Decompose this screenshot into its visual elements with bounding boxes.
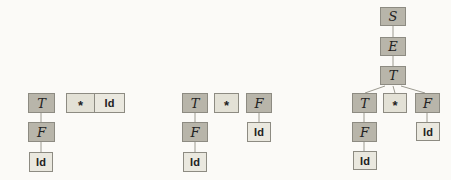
g2-node-star: *	[214, 93, 239, 113]
edge	[401, 86, 425, 93]
edge	[365, 86, 385, 93]
g1-node-F: F	[28, 122, 55, 142]
g2-node-F-label: F	[190, 125, 199, 140]
g2-node-star-label: *	[224, 98, 229, 113]
g3-node-F-label: F	[360, 125, 369, 140]
g1-star-cell: *	[67, 94, 95, 112]
g3-node-Id: Id	[353, 151, 377, 170]
g1-node-T: T	[28, 93, 55, 113]
g2-node-Id-label: Id	[190, 156, 200, 168]
g3-node-star: *	[383, 93, 407, 113]
g2-node-Id-right: Id	[247, 122, 271, 142]
g3-node-Id-right-label: Id	[423, 126, 433, 138]
g2-node-F-top: F	[246, 93, 272, 113]
g3-node-T-label: T	[360, 96, 369, 111]
g2-node-T: T	[182, 93, 208, 113]
g3-node-F-right-label: F	[423, 96, 432, 111]
g3-node-F: F	[352, 122, 377, 142]
g1-star-label: *	[78, 98, 83, 113]
g1-remaining-input-box: * Id	[66, 93, 125, 113]
g1-node-Id-label: Id	[36, 156, 46, 168]
edge	[393, 86, 395, 93]
g2-node-F: F	[182, 122, 208, 142]
g2-node-F-top-label: F	[254, 96, 263, 111]
g3-node-star-label: *	[392, 98, 397, 113]
g3-node-T-top: T	[380, 66, 406, 85]
g1-id-cell: Id	[95, 94, 124, 112]
g3-node-E-label: E	[388, 39, 398, 54]
g1-node-T-label: T	[37, 96, 46, 111]
g1-id-cell-label: Id	[105, 97, 115, 109]
g3-node-E: E	[380, 37, 406, 56]
g1-node-Id: Id	[29, 152, 53, 172]
g2-node-Id-right-label: Id	[254, 126, 264, 138]
g3-node-T: T	[352, 93, 377, 113]
tree-edges	[0, 0, 451, 180]
g3-node-S: S	[380, 7, 406, 26]
g3-node-T-top-label: T	[389, 68, 398, 83]
g2-node-T-label: T	[191, 96, 200, 111]
g1-node-F-label: F	[37, 125, 46, 140]
g3-node-F-right: F	[415, 93, 440, 113]
g3-node-Id-label: Id	[360, 155, 370, 167]
g3-node-Id-right: Id	[416, 122, 440, 141]
parse-tree-figure: T F Id * Id T * F F Id Id S E T T	[0, 0, 451, 180]
g3-node-S-label: S	[389, 9, 398, 24]
g2-node-Id: Id	[183, 152, 207, 172]
